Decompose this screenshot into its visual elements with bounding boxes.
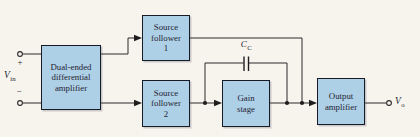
block-dual-ended-differential-amplifier: Dual-ended differential amplifier (41, 45, 101, 110)
input-voltage-subscript: in (10, 75, 15, 82)
output-voltage-symbol: V (395, 96, 401, 106)
capacitor-subscript: C (247, 44, 252, 51)
output-voltage-subscript: o (401, 101, 404, 108)
block-label-line: Output (329, 91, 353, 101)
amplifier-block-diagram: Dual-ended differential amplifier Source… (0, 0, 420, 137)
junction-dot (285, 101, 289, 105)
junction-dot (300, 101, 304, 105)
capacitor-icon (244, 57, 249, 72)
block-output-amplifier: Output amplifier (317, 78, 365, 125)
output-terminal (387, 101, 392, 106)
block-label-line: Source (154, 22, 178, 32)
output-voltage-label: Vo (395, 97, 404, 107)
junction-dot (203, 101, 207, 105)
block-label-line: follower (151, 98, 181, 108)
arrowhead-into-gain-icon (214, 100, 222, 106)
block-label-line: 2 (164, 109, 168, 119)
block-gain-stage: Gain stage (222, 80, 270, 127)
block-source-follower-2: Source follower 2 (142, 80, 190, 127)
block-label-line: 1 (164, 43, 168, 53)
capacitor-symbol: C (241, 39, 247, 49)
input-voltage-symbol: V (4, 70, 10, 80)
input-polarity-plus-label: + (13, 58, 27, 67)
block-label-line: Gain (237, 93, 254, 103)
block-label-line: stage (237, 104, 255, 114)
block-source-follower-1: Source follower 1 (142, 15, 190, 61)
input-voltage-label: Vin (4, 71, 15, 81)
block-label-line: Dual-ended (50, 62, 91, 72)
block-label-line: amplifier (55, 83, 87, 93)
arrowhead-into-sf2-icon (134, 100, 142, 106)
block-label-line: follower (151, 33, 181, 43)
block-label-line: differential (52, 72, 91, 82)
wire-diffamp-to-sf1 (101, 38, 135, 54)
arrowhead-into-sf1-icon (134, 35, 142, 41)
input-polarity-minus-label: − (13, 87, 25, 96)
input-terminal-bottom (18, 101, 23, 106)
arrowhead-into-outamp-icon (309, 100, 317, 106)
block-label-line: amplifier (325, 102, 357, 112)
compensation-capacitor-label: CC (234, 40, 258, 49)
block-label-line: Source (154, 88, 178, 98)
input-terminal-top (18, 52, 23, 57)
